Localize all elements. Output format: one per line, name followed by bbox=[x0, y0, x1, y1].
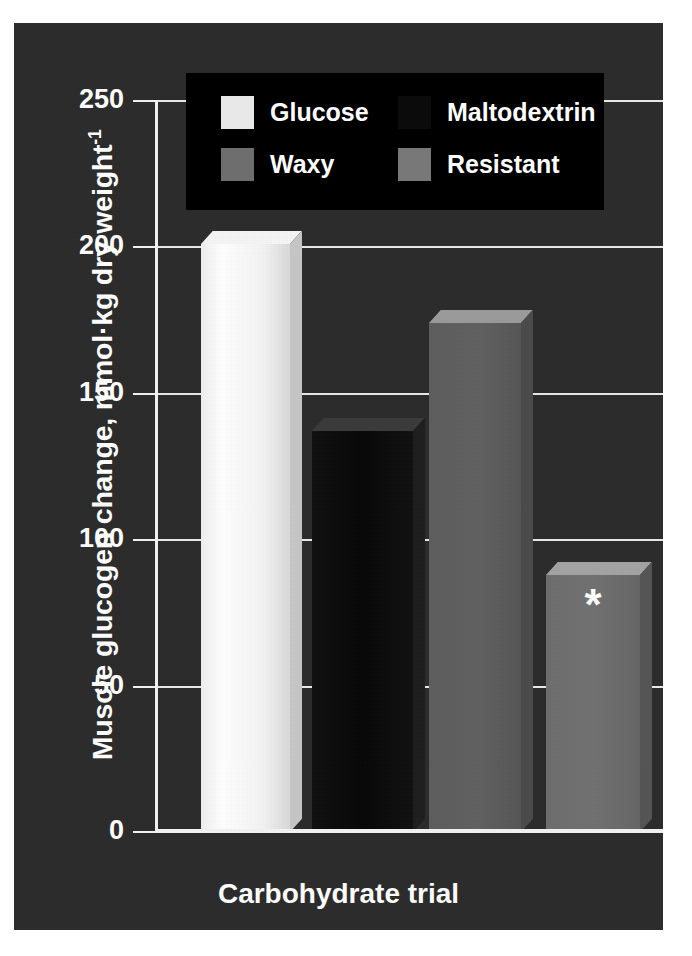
tick-250: 250 bbox=[133, 100, 155, 102]
bar-glucose-front bbox=[201, 244, 290, 832]
legend-label-resistant: Resistant bbox=[447, 150, 560, 179]
legend-label-glucose: Glucose bbox=[270, 98, 369, 127]
bar-waxy-front bbox=[429, 323, 521, 832]
legend-item-maltodextrin[interactable]: Maltodextrin bbox=[398, 96, 596, 129]
bar-glucose-side bbox=[290, 231, 302, 832]
x-axis-line bbox=[155, 829, 663, 833]
legend: Glucose Maltodextrin Waxy Resistant bbox=[186, 73, 604, 210]
bar-maltodextrin[interactable] bbox=[312, 431, 413, 832]
tick-50: 50 bbox=[133, 686, 155, 688]
bar-waxy-side bbox=[521, 310, 533, 832]
x-axis-title: Carbohydrate trial bbox=[14, 878, 663, 910]
figure-container: Muscle glucogen change, mmol·kg dry weig… bbox=[0, 0, 692, 956]
y-tick-label-50: 50 bbox=[94, 670, 124, 701]
bar-resistant[interactable]: * bbox=[546, 575, 640, 832]
tick-200: 200 bbox=[133, 246, 155, 248]
y-axis-line bbox=[155, 100, 158, 832]
tick-0: 0 bbox=[133, 831, 155, 833]
legend-label-maltodextrin: Maltodextrin bbox=[447, 98, 596, 127]
bar-maltodextrin-front bbox=[312, 431, 413, 832]
bar-maltodextrin-side bbox=[413, 418, 425, 832]
y-tick-label-150: 150 bbox=[79, 377, 124, 408]
bar-waxy[interactable] bbox=[429, 323, 521, 832]
legend-swatch-maltodextrin bbox=[398, 96, 431, 129]
bar-glucose[interactable] bbox=[201, 244, 290, 832]
legend-item-resistant[interactable]: Resistant bbox=[398, 148, 560, 181]
legend-item-glucose[interactable]: Glucose bbox=[221, 96, 369, 129]
legend-row-1: Glucose Maltodextrin bbox=[186, 96, 604, 140]
legend-swatch-glucose bbox=[221, 96, 254, 129]
bar-resistant-top bbox=[546, 562, 652, 575]
chart-plate: Muscle glucogen change, mmol·kg dry weig… bbox=[14, 23, 663, 930]
y-tick-label-100: 100 bbox=[79, 523, 124, 554]
y-tick-label-0: 0 bbox=[109, 815, 124, 846]
legend-row-2: Waxy Resistant bbox=[186, 148, 604, 192]
significance-asterisk: * bbox=[584, 595, 601, 615]
y-tick-label-200: 200 bbox=[79, 230, 124, 261]
bar-resistant-side bbox=[640, 562, 652, 832]
y-axis-title-exponent: -1 bbox=[85, 129, 105, 144]
bar-glucose-top bbox=[201, 231, 302, 244]
legend-item-waxy[interactable]: Waxy bbox=[221, 148, 334, 181]
y-axis-title: Muscle glucogen change, mmol·kg dry weig… bbox=[85, 65, 119, 825]
bar-maltodextrin-top bbox=[312, 418, 425, 431]
tick-100: 100 bbox=[133, 539, 155, 541]
y-tick-label-250: 250 bbox=[79, 84, 124, 115]
legend-swatch-resistant bbox=[398, 148, 431, 181]
legend-swatch-waxy bbox=[221, 148, 254, 181]
bar-waxy-top bbox=[429, 310, 533, 323]
legend-label-waxy: Waxy bbox=[270, 150, 334, 179]
tick-150: 150 bbox=[133, 393, 155, 395]
plot-area: 250 200 150 100 50 0 bbox=[155, 100, 663, 855]
